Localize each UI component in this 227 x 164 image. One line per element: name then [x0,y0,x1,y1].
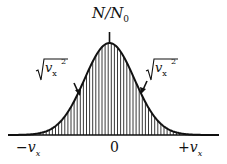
right-arrow-icon [140,81,147,94]
x-label-negative: −vx [16,139,40,158]
annotation-left-rms: vx [45,60,57,78]
x-label-positive: +vx [178,139,202,158]
x-label-zero: 0 [110,139,119,155]
distribution-curve [8,43,219,135]
y-axis-title: N/N0 [92,4,129,24]
annotation-left-superscript: 2 [61,57,66,66]
annotation-right-superscript: 2 [171,57,176,66]
annotation-right-rms: vx [155,60,167,78]
